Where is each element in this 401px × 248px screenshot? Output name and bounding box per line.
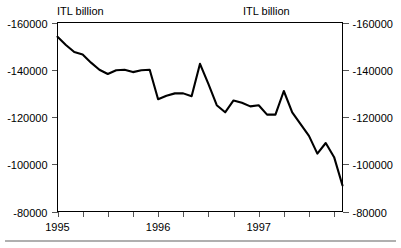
right-tick-label: -80000 bbox=[353, 207, 387, 219]
left-tick-label: -80000 bbox=[13, 207, 47, 219]
left-value-axis: -160000-140000-120000-100000-80000 bbox=[7, 18, 57, 219]
plot-border bbox=[58, 23, 343, 212]
left-tick-label: -160000 bbox=[7, 18, 47, 30]
time-axis bbox=[59, 212, 335, 217]
year-label: 1996 bbox=[146, 221, 170, 233]
right-tick-label: -140000 bbox=[353, 65, 393, 77]
data-series-line bbox=[58, 37, 343, 186]
left-tick-label: -120000 bbox=[7, 112, 47, 124]
right-tick-label: -160000 bbox=[353, 18, 393, 30]
left-tick-label: -140000 bbox=[7, 65, 47, 77]
right-tick-label: -100000 bbox=[353, 159, 393, 171]
year-labels: 199519961997 bbox=[45, 221, 271, 233]
left-tick-label: -100000 bbox=[7, 159, 47, 171]
line-chart-plot: -160000-140000-120000-100000-80000 -1600… bbox=[0, 0, 401, 248]
right-tick-label: -120000 bbox=[353, 112, 393, 124]
right-value-axis: -160000-140000-120000-100000-80000 bbox=[343, 18, 393, 219]
chart-figure: ITL billion ITL billion -160000-140000-1… bbox=[0, 0, 401, 248]
year-label: 1995 bbox=[45, 221, 69, 233]
year-label: 1997 bbox=[246, 221, 270, 233]
